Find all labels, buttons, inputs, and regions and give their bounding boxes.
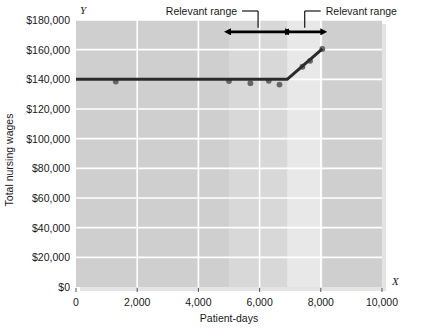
x-tick-label: 10,000 — [366, 296, 398, 308]
relevant-range-right-label: Relevant range — [326, 5, 397, 17]
relevant-range-band-2 — [287, 20, 322, 287]
chart-container: $0$20,000$40,000$60,000$80,000$100,000$1… — [0, 0, 421, 329]
y-tick-label: $80,000 — [32, 162, 70, 174]
y-tick-label: $120,000 — [26, 103, 70, 115]
y-tick-label: $180,000 — [26, 14, 70, 26]
y-tick-label: $100,000 — [26, 133, 70, 145]
y-tick-label: $20,000 — [32, 251, 70, 263]
relevant-range-band-1 — [229, 20, 287, 287]
x-tick-label: 8,000 — [308, 296, 334, 308]
x-tick-label: 6,000 — [246, 296, 272, 308]
x-tick-label: 4,000 — [185, 296, 211, 308]
y-axis-title: Total nursing wages — [3, 114, 15, 207]
x-axis-letter: X — [391, 275, 400, 287]
y-tick-label: $140,000 — [26, 73, 70, 85]
nursing-wages-chart: $0$20,000$40,000$60,000$80,000$100,000$1… — [0, 0, 421, 329]
data-point — [277, 82, 283, 88]
x-axis-tick-labels: 02,0004,0006,0008,00010,000 — [73, 296, 398, 308]
y-tick-label: $160,000 — [26, 44, 70, 56]
x-tick-label: 2,000 — [124, 296, 150, 308]
x-tick-label: 0 — [73, 296, 79, 308]
y-tick-label: $0 — [58, 281, 70, 293]
plot-shadow-right — [382, 24, 386, 291]
x-axis-title: Patient-days — [200, 312, 258, 324]
plot-shadow-bottom — [80, 287, 386, 291]
relevant-range-left-label: Relevant range — [166, 5, 237, 17]
y-axis-letter: Y — [80, 4, 88, 16]
y-tick-label: $40,000 — [32, 222, 70, 234]
data-point — [248, 80, 254, 86]
y-tick-label: $60,000 — [32, 192, 70, 204]
y-axis-tick-labels: $0$20,000$40,000$60,000$80,000$100,000$1… — [26, 14, 70, 293]
